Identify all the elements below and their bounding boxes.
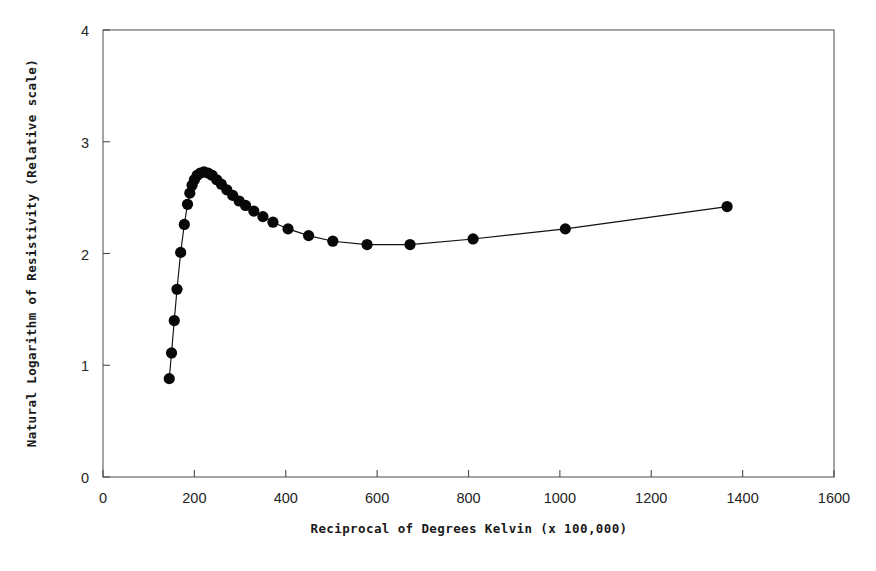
data-point-marker: [361, 239, 372, 250]
y-tick-label: 2: [81, 247, 89, 263]
x-tick-label: 600: [365, 490, 389, 506]
data-point-marker: [721, 201, 732, 212]
data-point-marker: [267, 217, 278, 228]
y-tick-label: 0: [81, 470, 89, 486]
data-point-marker: [182, 199, 193, 210]
data-point-marker: [404, 239, 415, 250]
data-point-marker: [282, 223, 293, 234]
chart-figure: 02004006008001000120014001600 01234 Reci…: [0, 0, 876, 571]
data-point-marker: [169, 315, 180, 326]
y-tick-label: 1: [81, 358, 89, 374]
y-tick-label: 3: [81, 135, 89, 151]
y-tick-label: 4: [81, 23, 89, 39]
data-point-marker: [164, 373, 175, 384]
data-point-marker: [560, 223, 571, 234]
x-axis-title: Reciprocal of Degrees Kelvin (x 100,000): [310, 521, 627, 536]
x-tick-label: 1400: [726, 490, 758, 506]
x-tick-label: 0: [99, 490, 107, 506]
resistivity-chart-svg: 02004006008001000120014001600 01234 Reci…: [0, 0, 876, 571]
x-tick-label: 800: [456, 490, 480, 506]
data-point-marker: [257, 211, 268, 222]
x-tick-label: 1000: [544, 490, 576, 506]
x-tick-label: 200: [182, 490, 206, 506]
y-axis-title: Natural Logarithm of Resistivity (Relati…: [24, 59, 39, 447]
data-point-marker: [175, 247, 186, 258]
x-tick-label: 1200: [635, 490, 667, 506]
data-point-marker: [166, 347, 177, 358]
data-point-marker: [179, 219, 190, 230]
data-point-marker: [171, 284, 182, 295]
data-point-marker: [467, 233, 478, 244]
x-tick-label: 400: [274, 490, 298, 506]
x-tick-label: 1600: [818, 490, 850, 506]
data-point-marker: [303, 230, 314, 241]
data-point-marker: [327, 236, 338, 247]
plot-frame: [103, 30, 834, 477]
